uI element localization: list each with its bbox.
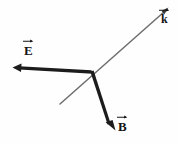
vector-label-k-text: k	[161, 12, 168, 26]
vector-B-shaft	[90, 71, 110, 125]
vector-diagram-svg	[0, 0, 178, 143]
vector-diagram-canvas: E B k	[0, 0, 178, 143]
vector-label-E: E	[24, 44, 33, 57]
vector-E-group	[13, 64, 93, 74]
vector-B-group	[90, 71, 115, 131]
vector-E-shaft	[19, 66, 93, 74]
vector-label-B-text: B	[118, 119, 127, 134]
vector-label-B: B	[118, 120, 127, 133]
vector-label-k: k	[161, 12, 168, 25]
vector-E-arrowhead	[13, 64, 22, 72]
vector-label-E-text: E	[24, 43, 33, 58]
vector-k-shaft	[60, 12, 165, 105]
vector-k-group	[60, 8, 169, 105]
